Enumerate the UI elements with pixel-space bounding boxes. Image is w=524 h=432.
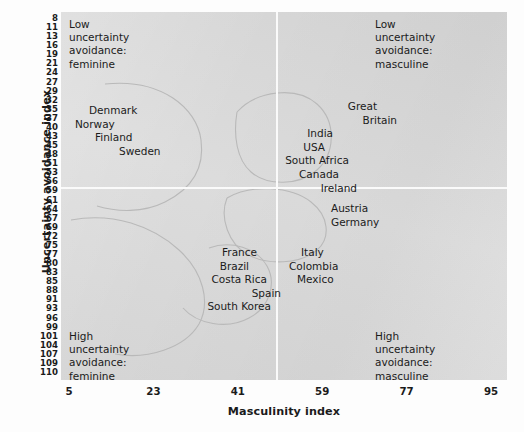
country-label: Brazil: [101, 260, 281, 274]
x-axis-title: Masculinity index: [61, 405, 507, 418]
country-label: Ireland: [221, 182, 401, 196]
chart-figure: Uncertainty avoidance index 811131619212…: [0, 0, 524, 432]
country-label: Costa Rica: [101, 273, 281, 287]
country-label: Denmark: [71, 104, 211, 118]
country-label: Norway: [71, 118, 211, 132]
country-label: India: [221, 127, 401, 141]
country-cluster-germanic: Austria Germany: [291, 202, 451, 229]
quadrant-note-bottom-right: High uncertainty avoidance: masculine: [375, 330, 435, 380]
country-label: South Korea: [101, 300, 281, 314]
country-label: Spain: [101, 287, 281, 301]
country-label: South Africa: [221, 154, 401, 168]
x-axis-tick-labels: 52341597795: [61, 386, 507, 400]
country-cluster-latin-european: France Brazil Costa Rica Spain South Kor…: [101, 246, 281, 314]
country-label: Sweden: [71, 145, 211, 159]
plot-area: Low uncertainty avoidance: feminine Low …: [61, 12, 507, 380]
quadrant-note-bottom-left: High uncertainty avoidance: feminine: [69, 330, 129, 380]
country-label: Mexico: [279, 273, 429, 287]
country-label: Italy: [279, 246, 429, 260]
quadrant-note-top-left: Low uncertainty avoidance: feminine: [69, 18, 129, 71]
country-label: Germany: [291, 216, 451, 230]
quadrant-note-top-right: Low uncertainty avoidance: masculine: [375, 18, 435, 71]
country-label: Britain: [221, 114, 401, 128]
country-cluster-nordic: Denmark Norway Finland Sweden: [71, 104, 211, 158]
y-axis-tick-label: 110: [32, 368, 58, 377]
country-label: Canada: [221, 168, 401, 182]
country-label: Colombia: [279, 260, 429, 274]
x-axis-tick-label: 41: [218, 386, 258, 397]
country-cluster-latin-american: Italy Colombia Mexico: [279, 246, 429, 287]
x-axis-tick-label: 23: [133, 386, 173, 397]
x-axis-tick-label: 77: [387, 386, 427, 397]
country-cluster-anglo: Great Britain India USA South Africa Can…: [221, 100, 401, 195]
x-axis-tick-label: 95: [471, 386, 511, 397]
x-axis-tick-label: 5: [49, 386, 89, 397]
quadrant-divider-vertical: [276, 12, 278, 380]
country-label: France: [101, 246, 281, 260]
country-label: Finland: [71, 131, 211, 145]
country-label: Austria: [291, 202, 451, 216]
x-axis-tick-label: 59: [302, 386, 342, 397]
country-label: Great: [221, 100, 401, 114]
country-label: USA: [221, 141, 401, 155]
y-axis-tick-labels: 8111316192124272932353740434548515356596…: [32, 12, 58, 380]
